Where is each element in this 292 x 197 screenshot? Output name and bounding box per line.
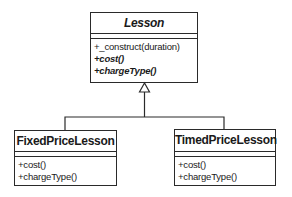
operations-compartment: +cost() +chargeType() [175, 157, 275, 185]
operation: +cost() [178, 159, 272, 171]
class-timed-price-lesson: TimedPriceLesson +cost() +chargeType() [174, 129, 276, 186]
class-name: TimedPriceLesson [175, 130, 275, 152]
operation: +chargeType() [18, 171, 113, 183]
operation: +chargeType() [178, 171, 272, 183]
generalization-arrowhead-icon [140, 83, 150, 92]
operation: +cost() [18, 159, 113, 171]
operations-compartment: +cost() +chargeType() [15, 157, 116, 185]
class-fixed-price-lesson: FixedPriceLesson +cost() +chargeType() [14, 130, 117, 186]
class-name: FixedPriceLesson [15, 131, 116, 152]
